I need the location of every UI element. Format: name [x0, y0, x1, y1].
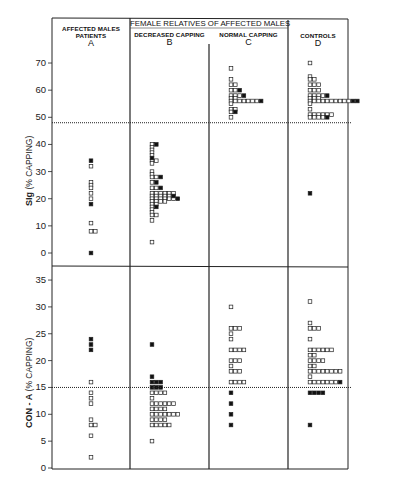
data-point-open [229, 337, 233, 341]
data-point-open [150, 402, 154, 406]
data-point-filled [356, 99, 360, 103]
data-point-open [308, 116, 312, 120]
data-point-open [308, 375, 312, 379]
data-point-filled [308, 192, 312, 196]
data-point-open [313, 327, 317, 331]
data-point-open [89, 230, 93, 234]
data-point-open [229, 380, 233, 384]
data-point-filled [159, 380, 163, 384]
data-point-filled [89, 202, 93, 206]
data-point-filled [308, 391, 312, 395]
data-point-open [313, 380, 317, 384]
data-point-open [167, 197, 171, 201]
data-point-open [308, 353, 312, 357]
data-point-open [308, 380, 312, 384]
data-point-open [150, 162, 154, 166]
data-point-open [234, 83, 238, 87]
y-tick-label: 70 [22, 58, 46, 68]
data-point-open [155, 159, 159, 163]
data-point-filled [351, 99, 355, 103]
data-point-filled [229, 402, 233, 406]
data-point-open [172, 413, 176, 417]
data-point-open [238, 94, 242, 98]
data-point-open [308, 107, 312, 111]
data-point-filled [150, 343, 154, 347]
data-point-open [89, 192, 93, 196]
y-tick-label: 10 [22, 221, 46, 231]
data-point-filled [150, 380, 154, 384]
data-point-open [159, 413, 163, 417]
data-point-open [338, 99, 342, 103]
data-point-open [242, 380, 246, 384]
data-point-open [155, 213, 159, 217]
data-point-open [251, 99, 255, 103]
data-point-open [234, 370, 238, 374]
data-point-open [343, 99, 347, 103]
y-tick-label: 5 [22, 436, 46, 446]
column-header-a-line1: AFFECTED MALES [52, 25, 130, 32]
column-header-a: AFFECTED MALES PATIENTS A [52, 25, 130, 48]
data-point-open [89, 418, 93, 422]
data-point-open [242, 348, 246, 352]
y-tick-label: 0 [22, 248, 46, 258]
data-point-open [313, 88, 317, 92]
column-header-c: NORMAL CAPPING C [209, 31, 288, 47]
data-point-filled [89, 337, 93, 341]
data-point-open [308, 83, 312, 87]
data-point-open [234, 88, 238, 92]
y-tick-label: 15 [22, 382, 46, 392]
data-point-open [242, 99, 246, 103]
data-point-open [308, 370, 312, 374]
data-point-open [155, 413, 159, 417]
data-point-open [229, 116, 233, 120]
data-point-open [155, 391, 159, 395]
axes [48, 63, 352, 468]
data-point-open [330, 99, 334, 103]
y-tick-label: 20 [22, 194, 46, 204]
data-point-open [89, 402, 93, 406]
data-point-open [317, 116, 321, 120]
data-point-open [308, 364, 312, 368]
data-point-open [321, 348, 325, 352]
data-point-open [308, 321, 312, 325]
data-point-open [317, 348, 321, 352]
y-tick-label: 40 [22, 139, 46, 149]
data-point-open [167, 413, 171, 417]
data-point-open [317, 83, 321, 87]
column-letter-a: A [52, 39, 130, 48]
data-point-open [229, 88, 233, 92]
data-point-open [308, 300, 312, 304]
y-tick-label: 60 [22, 85, 46, 95]
data-point-open [313, 348, 317, 352]
data-point-open [229, 110, 233, 114]
data-point-open [325, 348, 329, 352]
data-point-open [89, 164, 93, 168]
dot-plot-figure [0, 0, 393, 500]
data-point-filled [308, 423, 312, 427]
data-point-open [229, 327, 233, 331]
data-point-open [238, 327, 242, 331]
data-point-open [89, 434, 93, 438]
y-tick-label: 30 [22, 302, 46, 312]
data-point-open [155, 407, 159, 411]
plot-frame [52, 18, 348, 469]
data-point-open [159, 418, 163, 422]
data-point-open [89, 423, 93, 427]
data-point-open [238, 380, 242, 384]
data-point-open [238, 348, 242, 352]
data-point-open [155, 423, 159, 427]
data-point-open [308, 61, 312, 65]
data-point-open [317, 359, 321, 363]
data-point-open [308, 337, 312, 341]
column-letter-d: D [288, 39, 348, 48]
data-point-filled [229, 391, 233, 395]
data-point-open [159, 391, 163, 395]
data-point-open [163, 200, 167, 204]
data-point-filled [155, 143, 159, 147]
data-point-open [330, 348, 334, 352]
data-point-open [229, 364, 233, 368]
data-point-open [159, 423, 163, 427]
data-point-open [150, 407, 154, 411]
data-point-open [308, 327, 312, 331]
y-tick-label: 20 [22, 356, 46, 366]
